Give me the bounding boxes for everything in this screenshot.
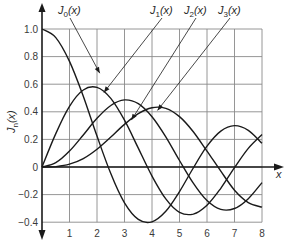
callout-arrow-icon	[104, 86, 110, 92]
grid-lines	[42, 29, 262, 222]
series-label: J0(x)	[57, 4, 81, 19]
x-tick-label: 2	[94, 228, 100, 239]
y-tick-label: 1.0	[24, 24, 38, 35]
series-label: J1(x)	[149, 4, 173, 19]
x-tick-label: 4	[149, 228, 155, 239]
x-tick-label: 6	[204, 228, 210, 239]
y-tick-label: 0	[32, 162, 38, 173]
y-tick-label: 0.2	[24, 134, 38, 145]
svg-text:Jn(x): Jn(x)	[5, 110, 20, 134]
series-labels: J0(x)J1(x)J2(x)J3(x)	[57, 4, 241, 120]
arrow-up-icon	[39, 3, 46, 12]
callout-line	[70, 18, 100, 73]
y-tick-label: 0.6	[24, 79, 38, 90]
series-label: J2(x)	[183, 4, 207, 19]
callout-line	[158, 18, 231, 110]
y-tick-label: −0.2	[18, 189, 38, 200]
x-tick-label: 8	[259, 228, 265, 239]
x-tick-label: 3	[122, 228, 128, 239]
y-tick-label: 0.8	[24, 51, 38, 62]
arrow-down-icon	[39, 230, 46, 240]
bessel-chart: 123456781.00.80.60.40.20−0.2−0.4 J0(x)J1…	[0, 0, 295, 244]
y-axis-label: Jn(x)	[5, 110, 20, 134]
axes	[39, 3, 285, 240]
axis-titles: x Jn(x)	[5, 110, 282, 180]
x-tick-label: 1	[67, 228, 73, 239]
callout-line	[131, 18, 196, 120]
series-label: J3(x)	[217, 4, 241, 19]
x-tick-label: 7	[232, 228, 238, 239]
tick-labels: 123456781.00.80.60.40.20−0.2−0.4	[18, 24, 265, 240]
y-tick-label: −0.4	[18, 217, 38, 228]
x-tick-label: 5	[177, 228, 183, 239]
x-axis-label: x	[275, 168, 282, 180]
y-tick-label: 0.4	[24, 106, 38, 117]
